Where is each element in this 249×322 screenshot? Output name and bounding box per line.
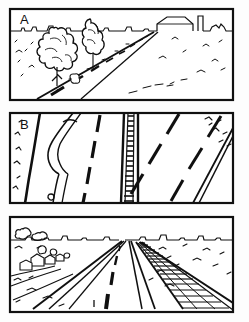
panel-c-scene xyxy=(10,217,233,312)
panel-a-scene: A xyxy=(10,9,233,100)
panel-c xyxy=(7,214,236,315)
panel-b-label: B xyxy=(20,117,29,132)
panel-a-label: A xyxy=(20,12,29,27)
panel-a-artwork: A xyxy=(7,6,236,103)
panel-b: B xyxy=(7,110,236,206)
panel-a: A xyxy=(7,6,236,103)
figure-root: A xyxy=(0,0,249,322)
panel-c-artwork xyxy=(7,214,236,315)
roadside-small-bush xyxy=(70,74,80,84)
panel-b-artwork: B xyxy=(7,110,236,206)
panel-b-scene: B xyxy=(10,113,233,203)
